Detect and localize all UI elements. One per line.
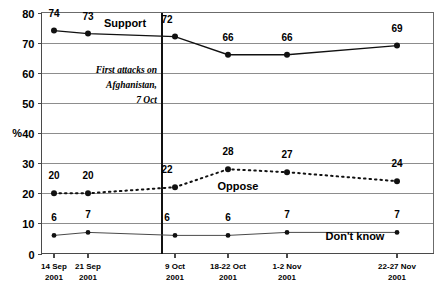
y-tick-label-30: 30: [22, 158, 34, 170]
data-point-support-2: [172, 34, 178, 40]
x-tick-label-5-top: 22-27 Nov: [378, 262, 416, 271]
series-label-support: Support: [104, 17, 146, 29]
chart-container: 01020304050607080 % 14 Sep200121 Sep2001…: [0, 0, 442, 287]
value-label-don-t-know-4: 7: [284, 209, 290, 220]
line-chart: 01020304050607080 % 14 Sep200121 Sep2001…: [0, 0, 442, 287]
value-label-oppose-4: 27: [281, 149, 293, 160]
value-label-support-1: 73: [82, 11, 94, 22]
value-label-oppose-2: 22: [161, 164, 173, 175]
annotation-line-1: First attacks on: [95, 65, 157, 75]
x-tick-label-4-top: 1-2 Nov: [273, 262, 302, 271]
data-point-don-t-know-0: [52, 233, 57, 238]
x-tick-label-2-bottom: 2001: [166, 273, 184, 282]
value-label-oppose-0: 20: [48, 170, 60, 181]
data-point-don-t-know-4: [285, 230, 290, 235]
y-tick-label-40: 40: [22, 128, 34, 140]
data-point-oppose-0: [51, 190, 57, 196]
x-tick-label-1-top: 21 Sep: [75, 262, 101, 271]
data-point-support-0: [51, 28, 57, 34]
data-point-don-t-know-1: [86, 230, 91, 235]
data-point-don-t-know-3: [226, 233, 231, 238]
value-label-don-t-know-1: 7: [85, 209, 91, 220]
data-point-don-t-know-2: [173, 233, 178, 238]
x-tick-label-5-bottom: 2001: [388, 273, 406, 282]
data-point-oppose-5: [394, 178, 400, 184]
value-label-don-t-know-0: 6: [51, 212, 57, 223]
y-tick-label-80: 80: [22, 8, 34, 20]
data-point-support-5: [394, 43, 400, 49]
y-tick-label-60: 60: [22, 68, 34, 80]
value-label-oppose-3: 28: [222, 146, 234, 157]
y-tick-label-20: 20: [22, 188, 34, 200]
y-tick-label-0: 0: [28, 249, 34, 261]
x-tick-label-3-bottom: 2001: [219, 273, 237, 282]
x-tick-label-2-top: 9 Oct: [165, 262, 185, 271]
y-tick-label-10: 10: [22, 218, 34, 230]
x-tick-label-1-bottom: 2001: [79, 273, 97, 282]
y-tick-label-70: 70: [22, 38, 34, 50]
value-label-support-0: 74: [48, 8, 60, 19]
value-label-oppose-1: 20: [82, 170, 94, 181]
data-point-support-1: [85, 31, 91, 37]
series-label-dontknow: Don't know: [326, 230, 385, 242]
data-point-oppose-1: [85, 190, 91, 196]
x-tick-label-3-top: 18-22 Oct: [210, 262, 246, 271]
x-tick-label-0-top: 14 Sep: [41, 262, 67, 271]
data-point-oppose-4: [284, 169, 290, 175]
value-label-support-5: 69: [391, 23, 403, 34]
annotation-line-3: 7 Oct: [136, 95, 157, 105]
value-label-support-3: 66: [222, 32, 234, 43]
series-label-oppose: Oppose: [218, 180, 259, 192]
value-label-support-4: 66: [281, 32, 293, 43]
data-point-oppose-2: [172, 184, 178, 190]
value-label-don-t-know-5: 7: [394, 209, 400, 220]
data-point-support-3: [225, 52, 231, 58]
y-axis-title: %: [12, 127, 22, 139]
data-point-don-t-know-5: [395, 230, 400, 235]
value-label-support-2: 72: [161, 14, 173, 25]
value-label-don-t-know-2: 6: [164, 212, 170, 223]
annotation-line-2: Afghanistan,: [105, 80, 157, 90]
data-point-support-4: [284, 52, 290, 58]
value-label-don-t-know-3: 6: [225, 212, 231, 223]
y-tick-label-50: 50: [22, 98, 34, 110]
data-point-oppose-3: [225, 166, 231, 172]
x-tick-label-4-bottom: 2001: [278, 273, 296, 282]
value-label-oppose-5: 24: [391, 158, 403, 169]
x-tick-label-0-bottom: 2001: [45, 273, 63, 282]
